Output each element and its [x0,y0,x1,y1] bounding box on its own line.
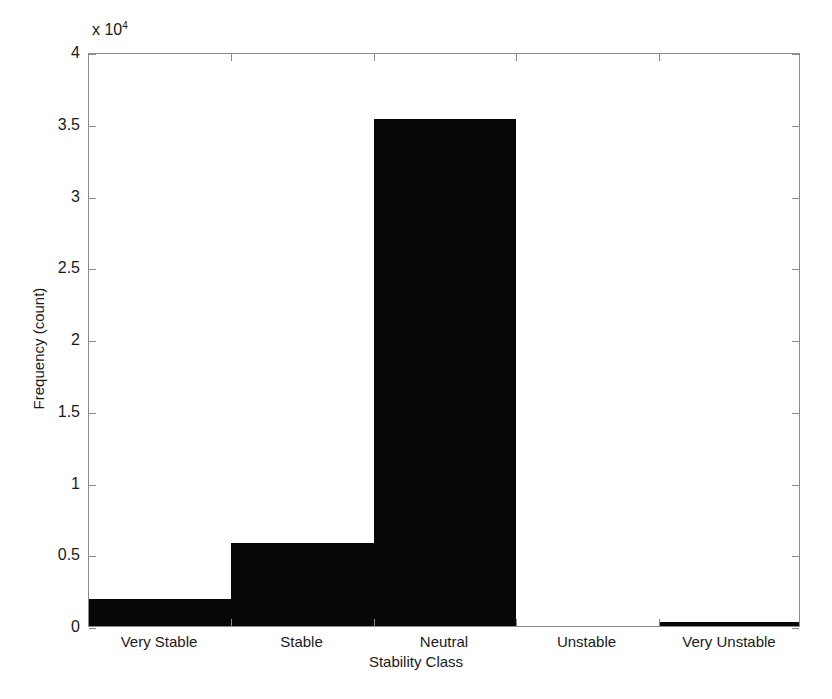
y-axis-tick [89,628,96,629]
figure-canvas: x 104 00.511.522.533.54 Frequency (count… [0,0,832,699]
bar [659,622,799,626]
y-axis-tick [792,341,799,342]
y-axis-tick-label: 1 [20,475,80,493]
y-axis-tick [792,413,799,414]
y-axis-tick-label: 3 [20,188,80,206]
y-axis-tick [792,54,799,55]
y-axis-title: Frequency (count) [30,249,47,449]
y-axis-tick-label: 4 [20,44,80,62]
bar-series [89,54,799,626]
y-axis-multiplier-label: x 104 [92,20,128,39]
bar [374,119,516,626]
y-axis-tick [792,198,799,199]
x-axis-tick [231,619,232,626]
y-axis-tick [89,341,96,342]
x-axis-tick-label: Unstable [557,633,616,650]
bar [231,543,374,626]
x-axis-tick [374,619,375,626]
x-axis-tick [516,619,517,626]
plot-area [88,53,800,627]
x-axis-tick-label: Very Stable [121,633,198,650]
y-axis-tick-label: 0 [20,618,80,636]
y-axis-tick [792,556,799,557]
y-axis-tick [89,54,96,55]
x-axis-tick [659,54,660,61]
x-axis-tick [516,54,517,61]
x-axis-title: Stability Class [0,653,832,670]
x-axis-tick-label: Very Unstable [682,633,775,650]
y-axis-tick [792,628,799,629]
y-axis-tick [792,485,799,486]
x-axis-tick [659,619,660,626]
x-axis-tick-label: Stable [280,633,323,650]
y-axis-tick [792,126,799,127]
y-axis-tick [89,413,96,414]
x-axis-tick [374,54,375,61]
x-axis-tick [231,54,232,61]
y-axis-tick-label: 0.5 [20,546,80,564]
y-axis-tick [89,485,96,486]
y-axis-tick [89,198,96,199]
y-axis-multiplier-exponent: 4 [122,20,128,31]
y-axis-tick [89,269,96,270]
y-axis-tick [89,126,96,127]
bar [89,599,231,626]
y-axis-tick [792,269,799,270]
x-axis-tick-label: Neutral [420,633,468,650]
y-axis-tick [89,556,96,557]
y-axis-multiplier-base: x 10 [92,21,122,38]
y-axis-tick-label: 3.5 [20,116,80,134]
